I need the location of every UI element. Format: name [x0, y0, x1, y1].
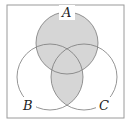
label-c: C	[99, 98, 109, 113]
venn-diagram: A B C	[0, 0, 132, 125]
label-b: B	[22, 98, 33, 113]
label-a: A	[61, 5, 71, 20]
